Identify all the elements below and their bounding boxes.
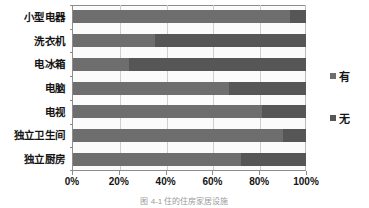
x-axis-tick-label-0: 0%: [65, 176, 79, 187]
y-axis-tick: [70, 76, 73, 77]
y-axis-label-3: 电脑: [45, 81, 65, 95]
legend-label: 有: [339, 68, 350, 84]
legend-swatch-icon: [330, 73, 336, 79]
y-axis-label-1: 洗衣机: [34, 34, 65, 48]
y-axis-tick: [70, 5, 73, 6]
x-axis-tick-labels: 0%20%40%60%80%100%: [0, 176, 369, 190]
legend-item-无[interactable]: 无: [330, 110, 350, 126]
x-axis-tick-label-100: 100%: [293, 176, 319, 187]
y-axis-label-5: 独立卫生间: [14, 128, 65, 142]
legend-item-有[interactable]: 有: [330, 68, 350, 84]
y-axis-tick: [70, 29, 73, 30]
x-axis-tick-80: [259, 171, 260, 175]
y-axis-ticks: [73, 5, 306, 170]
y-axis-label-4: 电视: [45, 105, 65, 119]
x-axis-tick-0: [72, 171, 73, 175]
x-axis-tick-60: [212, 171, 213, 175]
x-axis-tick-40: [166, 171, 167, 175]
y-axis-label-0: 小型电器: [24, 10, 65, 24]
y-axis-label-6: 独立厨房: [24, 152, 65, 166]
y-axis-tick: [70, 52, 73, 53]
y-axis-tick: [70, 100, 73, 101]
x-axis-tick-label-80: 80%: [249, 176, 269, 187]
x-axis-tick-label-40: 40%: [156, 176, 176, 187]
y-axis-tick: [70, 147, 73, 148]
x-axis-tick-label-20: 20%: [109, 176, 129, 187]
x-axis-tick-label-60: 60%: [202, 176, 222, 187]
stacked-bar-chart: 小型电器洗衣机电冰箱电脑电视独立卫生间独立厨房 0%20%40%60%80%10…: [0, 0, 369, 208]
legend-label: 无: [339, 110, 350, 126]
x-axis-tick-100: [306, 171, 307, 175]
y-axis-label-2: 电冰箱: [34, 57, 65, 71]
legend-swatch-icon: [330, 115, 336, 121]
y-axis-category-labels: 小型电器洗衣机电冰箱电脑电视独立卫生间独立厨房: [0, 5, 68, 171]
x-axis-tick-20: [119, 171, 120, 175]
figure-caption: 图 4-1 住的住房家居设施: [0, 195, 369, 206]
chart-legend: 有无: [330, 68, 369, 130]
y-axis-tick: [70, 124, 73, 125]
plot-area: [72, 5, 306, 171]
